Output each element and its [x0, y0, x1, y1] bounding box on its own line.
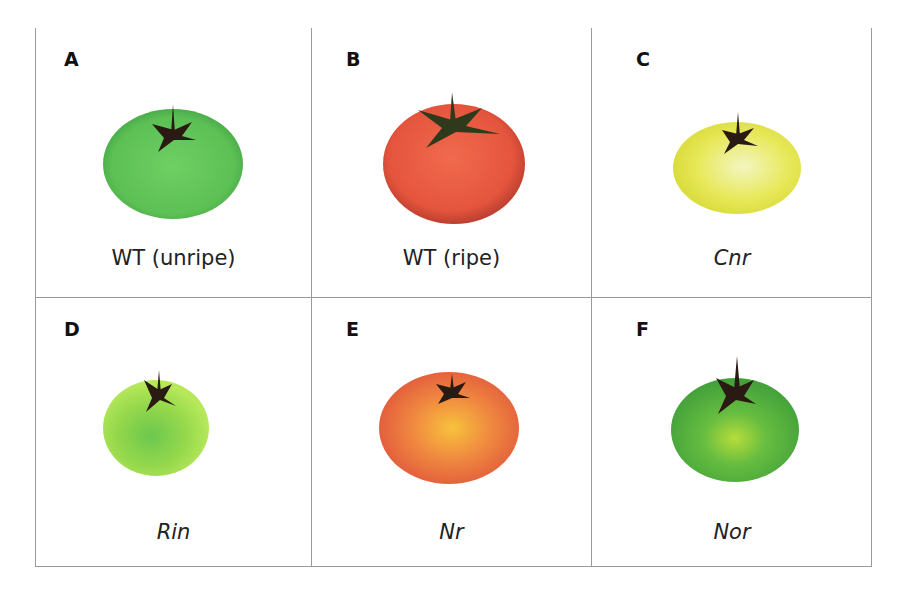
- panel-letter: C: [636, 48, 650, 70]
- tomato-ripe-icon: [382, 88, 526, 224]
- tomato-phenotype-grid: A WT (unripe) B WT (ripe) C: [35, 28, 872, 567]
- panel-d: D Rin: [36, 298, 311, 567]
- tomato-unripe-icon: [102, 94, 244, 220]
- panel-caption: Nr: [312, 520, 591, 544]
- tomato-rin-icon: [102, 368, 210, 478]
- panel-caption: WT (unripe): [36, 246, 311, 270]
- panel-letter: E: [346, 318, 359, 340]
- tomato-nor-icon: [670, 350, 800, 482]
- panel-e: E Nr: [312, 298, 591, 567]
- panel-f: F Nor: [592, 298, 872, 567]
- panel-caption: Nor: [592, 520, 872, 544]
- panel-caption: Cnr: [592, 246, 872, 270]
- panel-caption: WT (ripe): [312, 246, 591, 270]
- tomato-cnr-icon: [672, 106, 802, 216]
- panel-letter: D: [64, 318, 80, 340]
- panel-letter: B: [346, 48, 360, 70]
- panel-b: B WT (ripe): [312, 28, 591, 297]
- panel-caption: Rin: [36, 520, 311, 544]
- tomato-nr-icon: [378, 368, 520, 484]
- panel-letter: F: [636, 318, 649, 340]
- panel-letter: A: [64, 48, 79, 70]
- panel-a: A WT (unripe): [36, 28, 311, 297]
- panel-c: C Cnr: [592, 28, 872, 297]
